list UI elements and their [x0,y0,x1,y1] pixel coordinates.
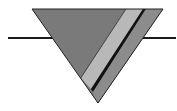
triangle-symbol-icon [0,0,177,111]
diagram-canvas [0,0,177,111]
triangle-fill [0,0,177,111]
